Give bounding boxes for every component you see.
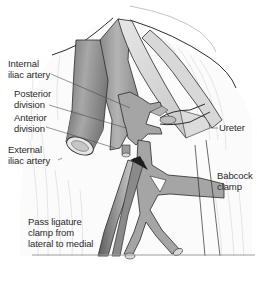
label-anterior-division: Anterior division (14, 112, 46, 134)
anatomical-figure: Internal iliac artery Posterior division… (0, 0, 257, 283)
label-internal-iliac-artery: Internal iliac artery (8, 58, 50, 80)
label-ureter: Ureter (219, 122, 245, 133)
label-posterior-division: Posterior division (14, 88, 51, 110)
label-babcock-clamp: Babcock clamp (217, 170, 253, 192)
label-pass-ligature: Pass ligature clamp from lateral to medi… (28, 216, 93, 249)
label-external-iliac-artery: External iliac artery (8, 144, 50, 166)
